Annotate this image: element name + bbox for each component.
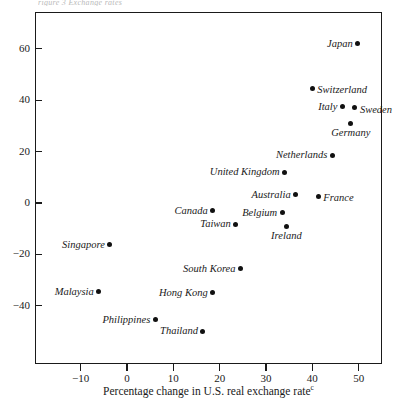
- data-point-label: France: [323, 192, 353, 203]
- data-point[interactable]: [282, 170, 287, 175]
- data-point-label: Italy: [318, 100, 337, 111]
- data-point[interactable]: [316, 194, 321, 199]
- data-point-label: Philippines: [102, 313, 150, 324]
- data-point-label: United Kingdom: [210, 166, 280, 177]
- data-point-label: Malaysia: [55, 285, 94, 296]
- x-tick: [173, 364, 174, 371]
- data-point-label: Thailand: [160, 325, 198, 336]
- data-point-label: Switzerland: [317, 84, 367, 95]
- data-point-label: Germany: [331, 127, 370, 138]
- x-tick: [312, 364, 313, 371]
- data-point-label: Japan: [327, 37, 353, 48]
- data-point-label: Netherlands: [276, 149, 327, 160]
- data-point-label: Canada: [174, 204, 207, 215]
- x-tick: [265, 364, 266, 371]
- y-tick: [35, 305, 42, 306]
- y-tick: [35, 151, 42, 152]
- x-tick: [80, 364, 81, 371]
- data-point-label: Ireland: [271, 230, 302, 241]
- data-point-label: Belgium: [242, 206, 277, 217]
- data-point-label: Sweden: [360, 103, 392, 114]
- y-tick: [35, 202, 42, 203]
- y-tick: [35, 254, 42, 255]
- y-tick-label: 60: [0, 42, 30, 54]
- y-tick: [35, 100, 42, 101]
- x-tick: [219, 364, 220, 371]
- data-point[interactable]: [330, 153, 335, 158]
- data-point[interactable]: [280, 210, 285, 215]
- y-tick: [35, 48, 42, 49]
- scatter-chart-figure: rigure 3 Exchange rates −1001020304050 6…: [0, 0, 417, 402]
- data-point-label: Taiwan: [200, 218, 231, 229]
- data-point[interactable]: [284, 224, 289, 229]
- x-tick: [358, 364, 359, 371]
- x-axis-title: Percentage change in U.S. real exchange …: [0, 383, 417, 397]
- data-point[interactable]: [233, 222, 238, 227]
- x-axis-title-footnote: c: [311, 383, 314, 392]
- data-point-label: Hong Kong: [159, 286, 208, 297]
- plot-frame: [35, 12, 382, 364]
- data-point-label: Australia: [252, 188, 291, 199]
- x-tick: [126, 364, 127, 371]
- y-tick-label: −20: [0, 247, 30, 259]
- y-tick-label: 0: [0, 196, 30, 208]
- data-point[interactable]: [310, 86, 315, 91]
- y-tick-label: 40: [0, 93, 30, 105]
- data-point-label: South Korea: [183, 262, 235, 273]
- cropped-caption-sliver: rigure 3 Exchange rates: [38, 0, 238, 6]
- data-point-label: Singapore: [62, 238, 105, 249]
- y-tick-label: −40: [0, 299, 30, 311]
- y-tick-label: 20: [0, 145, 30, 157]
